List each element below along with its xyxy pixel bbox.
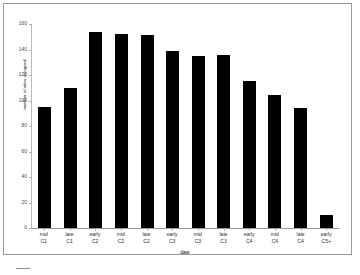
x-tick: midC3: [185, 231, 211, 246]
x-tick-mark: [249, 228, 250, 231]
x-tick-label-line1: late: [57, 231, 83, 238]
x-tick-label-line2: C4: [288, 238, 314, 245]
x-tick-label-line1: late: [134, 231, 160, 238]
x-axis-title: date: [31, 250, 339, 255]
x-tick-label-line1: early: [313, 231, 339, 238]
bar-slot: [313, 24, 339, 228]
x-tick-mark: [147, 228, 148, 231]
x-tick-label-line2: C1: [57, 238, 83, 245]
x-tick-mark: [70, 228, 71, 231]
y-tick-label: 20: [21, 199, 27, 205]
x-tick: lateC2: [134, 231, 160, 246]
bar[interactable]: [243, 81, 256, 228]
bar-slot: [288, 24, 314, 228]
x-tick-label-line2: C2: [108, 238, 134, 245]
x-tick-label-line1: early: [82, 231, 108, 238]
footer-rule: [16, 268, 30, 269]
bar-slot: [32, 24, 58, 228]
x-tick-label-line1: early: [236, 231, 262, 238]
x-tick-label-line2: C1: [31, 238, 57, 245]
bar[interactable]: [166, 51, 179, 228]
x-tick-label-line1: mid: [262, 231, 288, 238]
x-tick-label-line2: C3: [159, 238, 185, 245]
x-tick: midC4: [262, 231, 288, 246]
y-tick-label: 140: [19, 46, 27, 52]
y-tick-label: 100: [19, 97, 27, 103]
bar[interactable]: [294, 108, 307, 228]
bar-slot: [134, 24, 160, 228]
x-tick-mark: [224, 228, 225, 231]
x-tick-mark: [95, 228, 96, 231]
y-tick-label: 120: [19, 71, 27, 77]
bar-slot: [211, 24, 237, 228]
y-tick-label: 60: [21, 148, 27, 154]
x-tick: earlyC4: [236, 231, 262, 246]
y-tick-label: 40: [21, 173, 27, 179]
x-tick-label-line2: C2: [82, 238, 108, 245]
bar[interactable]: [89, 32, 102, 228]
x-tick-mark: [301, 228, 302, 231]
x-tick-label-line1: mid: [108, 231, 134, 238]
x-tick: lateC3: [211, 231, 237, 246]
bar[interactable]: [141, 35, 154, 228]
bar-slot: [109, 24, 135, 228]
y-tick-label: 0: [24, 224, 27, 230]
bar-slot: [237, 24, 263, 228]
x-tick: midC1: [31, 231, 57, 246]
bar[interactable]: [64, 88, 77, 228]
y-tick-label: 160: [19, 20, 27, 26]
y-tick-mark: [29, 228, 32, 229]
bar-slot: [262, 24, 288, 228]
bar-series: [32, 24, 339, 228]
x-tick-mark: [172, 228, 173, 231]
x-tick: lateC1: [57, 231, 83, 246]
x-tick-label-line2: C4: [236, 238, 262, 245]
bar-slot: [160, 24, 186, 228]
x-tick-label-line2: C3: [185, 238, 211, 245]
x-tick-label-line1: mid: [185, 231, 211, 238]
x-tick-label-line2: C5+: [313, 238, 339, 245]
x-tick: earlyC3: [159, 231, 185, 246]
x-tick: earlyC5+: [313, 231, 339, 246]
x-tick: lateC4: [288, 231, 314, 246]
x-tick-label-line1: mid: [31, 231, 57, 238]
bar[interactable]: [268, 95, 281, 228]
bar[interactable]: [192, 56, 205, 228]
x-tick-label-line2: C3: [211, 238, 237, 245]
plot-area: 020406080100120140160: [31, 24, 339, 229]
bar[interactable]: [38, 107, 51, 228]
bar[interactable]: [320, 215, 333, 228]
bar[interactable]: [115, 34, 128, 228]
x-tick-mark: [275, 228, 276, 231]
x-tick-label-line1: late: [211, 231, 237, 238]
x-tick-mark: [121, 228, 122, 231]
x-tick-label-line2: C4: [262, 238, 288, 245]
y-tick-label: 80: [21, 122, 27, 128]
x-tick-label-line1: late: [288, 231, 314, 238]
x-tick-label-line2: C2: [134, 238, 160, 245]
x-tick-mark: [44, 228, 45, 231]
bar-slot: [185, 24, 211, 228]
chart-canvas: number of sites occupied 020406080100120…: [4, 4, 351, 254]
x-tick-mark: [198, 228, 199, 231]
x-tick: earlyC2: [82, 231, 108, 246]
x-tick: midC2: [108, 231, 134, 246]
bar-slot: [83, 24, 109, 228]
x-tick-mark: [326, 228, 327, 231]
bar-slot: [58, 24, 84, 228]
x-tick-label-line1: early: [159, 231, 185, 238]
bar[interactable]: [217, 55, 230, 228]
chart-frame: number of sites occupied 020406080100120…: [3, 3, 352, 255]
